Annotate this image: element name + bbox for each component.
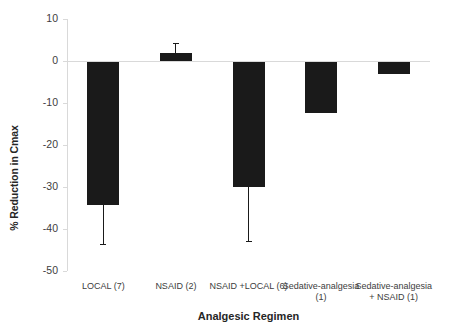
y-tick-label: -40: [22, 223, 58, 234]
bar: [305, 61, 337, 113]
x-axis-title: Analgesic Regimen: [67, 310, 430, 322]
x-tick-label-line: LOCAL (7): [63, 281, 144, 292]
y-tick-label: -30: [22, 181, 58, 192]
x-tick-label-line: (1): [281, 292, 362, 303]
zero-baseline: [67, 61, 430, 62]
bar: [378, 61, 410, 74]
x-tick-label: NSAID +LOCAL (6): [208, 281, 289, 292]
bar: [233, 61, 265, 187]
bar: [160, 53, 192, 61]
error-bar-line: [103, 205, 104, 244]
error-bar-cap: [173, 43, 179, 44]
bars-layer: [67, 19, 430, 271]
y-tick-label: 10: [22, 13, 58, 24]
x-tick-label-line: + NSAID (1): [353, 292, 434, 303]
y-tick-label: -10: [22, 97, 58, 108]
x-tick-label: Sedative-analgesia(1): [281, 281, 362, 303]
error-bar-cap: [100, 244, 106, 245]
x-tick-label: Sedative-analgesia+ NSAID (1): [353, 281, 434, 303]
y-tick-mark: [63, 271, 67, 272]
error-bar-line: [175, 43, 176, 53]
error-bar-cap: [246, 241, 252, 242]
y-tick-label: 0: [22, 55, 58, 66]
x-tick-label-line: Sedative-analgesia: [353, 281, 434, 292]
x-tick-label-line: NSAID +LOCAL (6): [208, 281, 289, 292]
x-tick-label-line: NSAID (2): [136, 281, 217, 292]
x-tick-label: NSAID (2): [136, 281, 217, 292]
bar-chart: % Reduction in Cmax 100-10-20-30-40-50 L…: [0, 0, 451, 331]
x-tick-label-line: Sedative-analgesia: [281, 281, 362, 292]
x-tick-label: LOCAL (7): [63, 281, 144, 292]
plot-area: [67, 19, 430, 271]
bar: [87, 61, 119, 205]
y-tick-label: -20: [22, 139, 58, 150]
y-axis-tick-labels: 100-10-20-30-40-50: [22, 0, 58, 331]
error-bar-line: [248, 187, 249, 241]
y-tick-label: -50: [22, 265, 58, 276]
